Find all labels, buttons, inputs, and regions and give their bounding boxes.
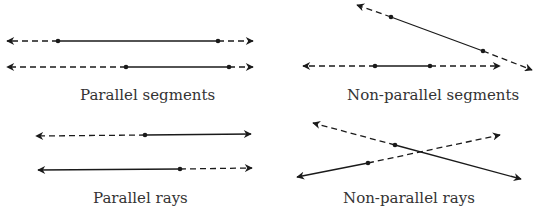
parallel-segments-label: Parallel segments <box>80 88 215 103</box>
solid-segment <box>391 17 483 51</box>
solid-ray <box>395 145 521 179</box>
dashed-extension-right <box>483 51 532 70</box>
geometry-figure <box>0 0 541 217</box>
parallel-segments-diagram <box>7 39 253 70</box>
endpoint-dot <box>481 49 486 54</box>
ray-origin-dot <box>143 133 148 138</box>
endpoint-dot <box>373 64 378 69</box>
solid-ray <box>38 169 180 170</box>
segment-line-2 <box>7 65 253 70</box>
dashed-extension-left <box>357 5 391 17</box>
solid-ray <box>145 134 251 135</box>
ray-origin-dot <box>393 143 398 148</box>
parallel-rays-label: Parallel rays <box>93 191 188 206</box>
non-parallel-rays-diagram <box>297 123 521 179</box>
non-parallel-segments-diagram <box>303 5 532 70</box>
non-parallel-rays-label: Non-parallel rays <box>343 191 475 206</box>
ray-origin-dot <box>178 167 183 172</box>
endpoint-dot <box>389 15 394 20</box>
dashed-extension-right <box>180 168 252 169</box>
solid-ray <box>297 163 368 177</box>
endpoint-dot <box>124 65 129 70</box>
segment-line-horizontal <box>303 64 500 69</box>
ray-line-2 <box>297 135 500 177</box>
segment-line-1 <box>7 39 253 44</box>
ray-line-1 <box>313 123 521 179</box>
non-parallel-segments-label: Non-parallel segments <box>347 88 519 103</box>
segment-line-diagonal <box>357 5 532 70</box>
endpoint-dot <box>428 64 433 69</box>
endpoint-dot <box>227 65 232 70</box>
ray-line-1 <box>36 133 251 138</box>
dashed-extension-right <box>368 135 500 163</box>
ray-origin-dot <box>366 161 371 166</box>
ray-line-2 <box>38 167 252 172</box>
parallel-rays-diagram <box>36 133 252 172</box>
dashed-extension-left <box>36 135 145 136</box>
dashed-extension-left <box>313 123 395 145</box>
endpoint-dot <box>216 39 221 44</box>
endpoint-dot <box>56 39 61 44</box>
